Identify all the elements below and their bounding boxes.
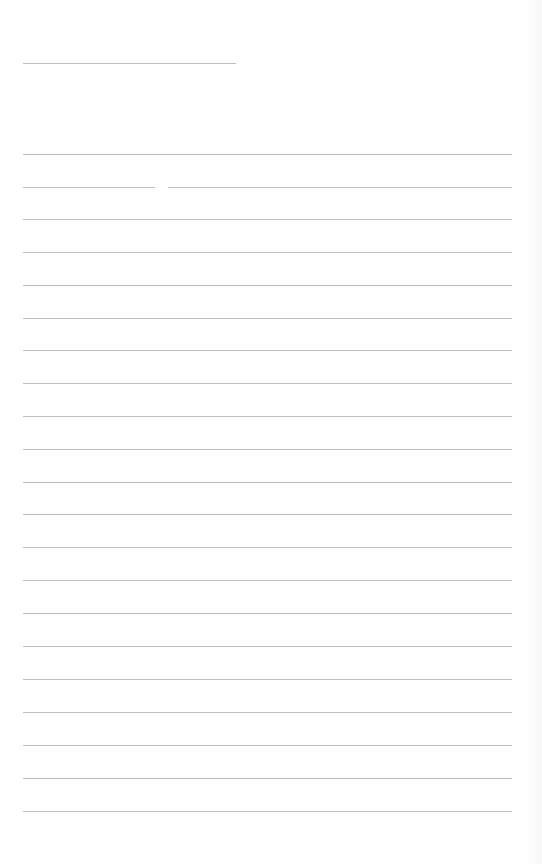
ruled-line [23, 449, 512, 450]
ruled-line [23, 482, 512, 483]
ruled-line-segment [168, 187, 512, 188]
ruled-line [23, 318, 512, 319]
ruled-line [23, 811, 512, 812]
ruled-line [23, 778, 512, 779]
ruled-line [23, 712, 512, 713]
ruled-line [23, 285, 512, 286]
ruled-line [23, 580, 512, 581]
ruled-line [23, 350, 512, 351]
lined-page [0, 0, 542, 864]
ruled-line [23, 154, 512, 155]
ruled-line [23, 679, 512, 680]
ruled-line [23, 514, 512, 515]
ruled-line [23, 547, 512, 548]
ruled-line [23, 219, 512, 220]
ruled-line [23, 745, 512, 746]
ruled-line [23, 613, 512, 614]
ruled-line [23, 252, 512, 253]
ruled-line [23, 383, 512, 384]
ruled-line [23, 416, 512, 417]
ruled-line-segment [23, 187, 155, 188]
header-rule [23, 63, 236, 64]
ruled-line [23, 646, 512, 647]
